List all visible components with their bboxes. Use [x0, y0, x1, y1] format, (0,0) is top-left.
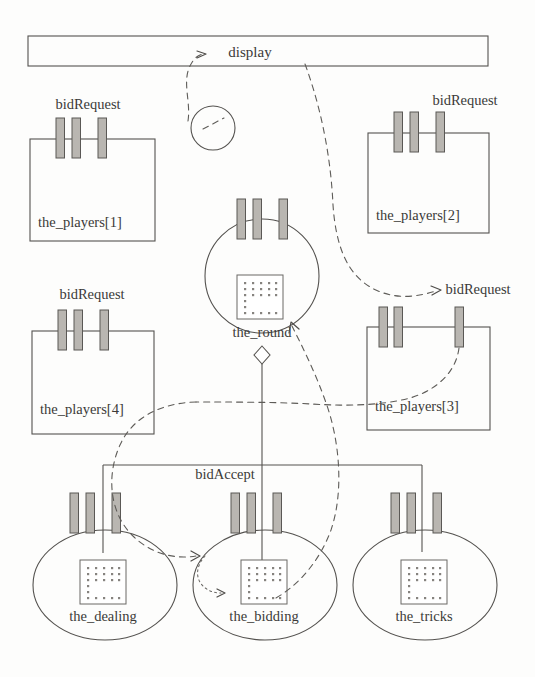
composition-connector	[103, 364, 422, 560]
dot-grid-icon	[401, 560, 447, 604]
display-label: display	[228, 44, 272, 60]
dot-grid-icon	[241, 560, 287, 604]
player-2-label: the_players[2]	[376, 207, 460, 223]
diagram-canvas: display the_players[1] bidRequest the_pl…	[0, 0, 535, 677]
dot-grid-icon	[80, 560, 126, 604]
the-tricks-label: the_tricks	[395, 608, 453, 624]
player-4-message-label: bidRequest	[59, 286, 124, 302]
player-1-node[interactable]: the_players[1]	[30, 118, 155, 241]
player-3-message-label: bidRequest	[445, 281, 510, 297]
the-bidding-node[interactable]: the_bidding	[193, 493, 337, 640]
player-4-node[interactable]: the_players[4]	[32, 310, 154, 434]
player-2-node[interactable]: the_players[2]	[368, 112, 489, 233]
anonymous-circle-node[interactable]	[191, 106, 235, 150]
message-link-bid-accept: bidAccept	[112, 402, 255, 561]
message-link-display-to-player3	[305, 64, 441, 296]
player-3-node[interactable]: the_players[3]	[367, 307, 490, 430]
message-link-player3-bus	[196, 348, 459, 405]
collaboration-diagram: display the_players[1] bidRequest the_pl…	[0, 0, 535, 677]
bid-accept-label: bidAccept	[195, 466, 255, 482]
player-3-label: the_players[3]	[375, 398, 459, 414]
diamond-icon	[254, 346, 270, 364]
port-bar-icon	[58, 310, 109, 350]
the-round-node[interactable]: the_round	[205, 199, 319, 364]
player-1-label: the_players[1]	[38, 214, 122, 230]
display-bar[interactable]: display	[28, 36, 488, 66]
message-link-bidding-internal	[198, 556, 225, 597]
the-tricks-node[interactable]: the_tricks	[353, 493, 497, 640]
port-bar-icon	[394, 112, 445, 152]
port-bar-icon	[391, 493, 442, 533]
port-bar-icon	[56, 118, 107, 158]
message-link-display-left	[187, 51, 224, 129]
dot-grid-icon	[237, 275, 283, 319]
the-dealing-label: the_dealing	[69, 608, 137, 624]
player-2-message-label: bidRequest	[432, 92, 497, 108]
the-round-label: the_round	[233, 324, 293, 340]
the-bidding-label: the_bidding	[229, 608, 298, 624]
player-1-message-label: bidRequest	[55, 96, 120, 112]
the-dealing-node[interactable]: the_dealing	[33, 493, 177, 640]
message-link-bidding-to-round	[276, 322, 339, 598]
port-bar-icon	[231, 493, 282, 533]
player-4-label: the_players[4]	[40, 401, 124, 417]
